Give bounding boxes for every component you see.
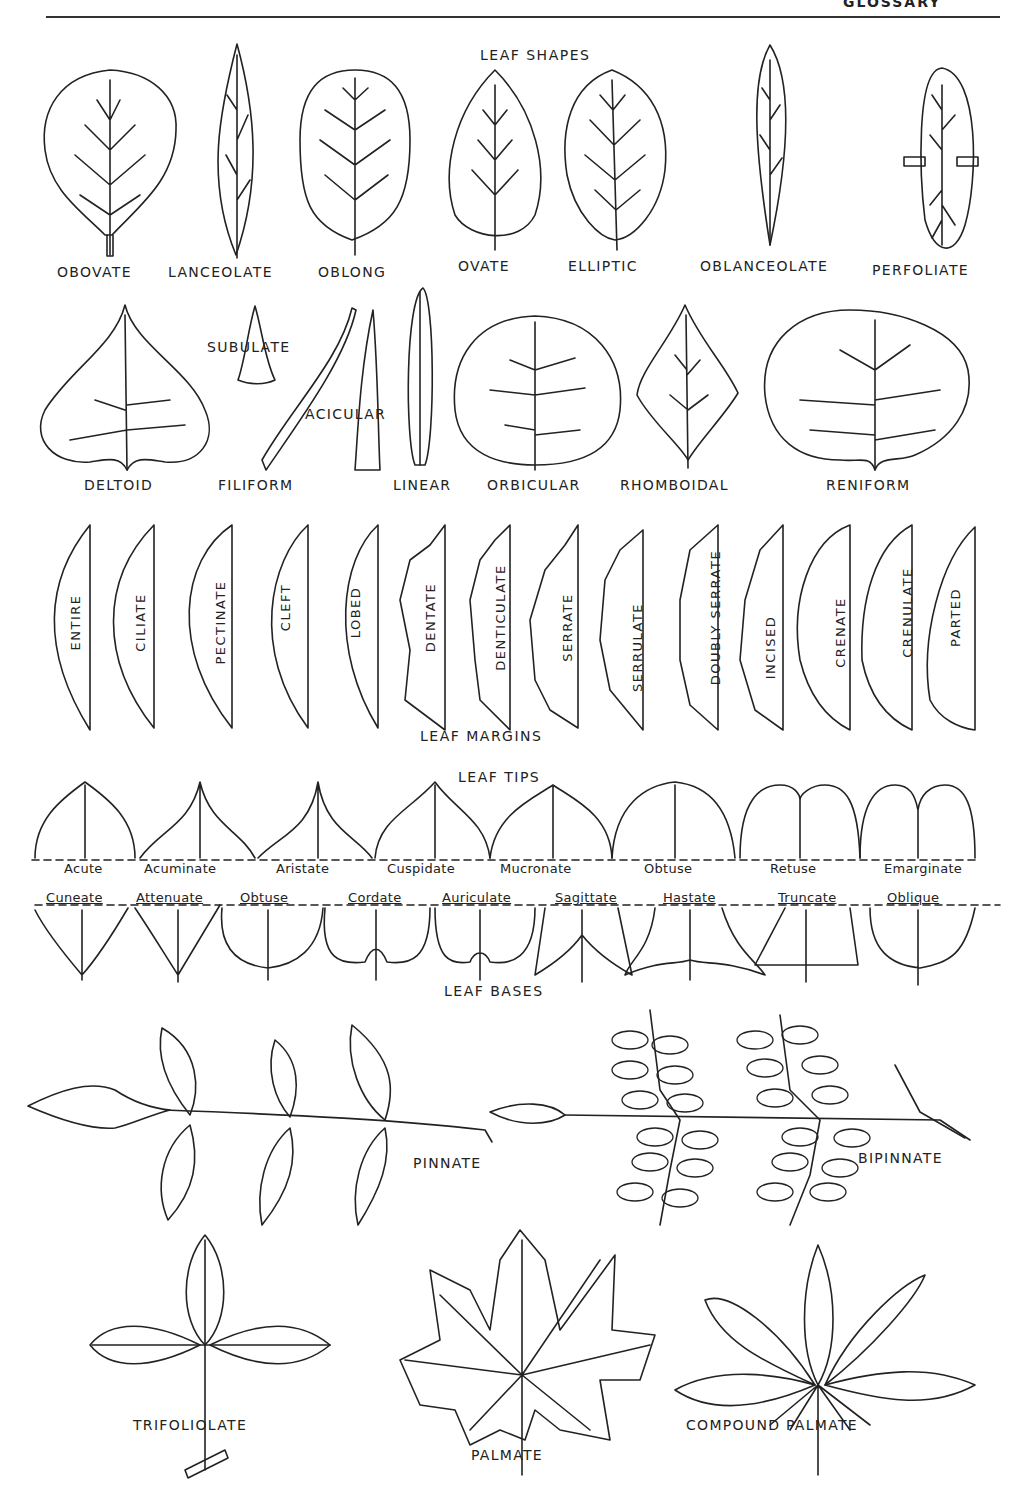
- label-acute: Acute: [64, 861, 103, 876]
- label-cuneate: Cuneate: [46, 890, 103, 905]
- lanceolate-leaf-icon: [218, 44, 253, 258]
- reniform-leaf-icon: [765, 310, 970, 470]
- label-orbicular: ORBICULAR: [487, 477, 581, 493]
- tip-shapes: [32, 782, 980, 860]
- section-title-leaf-tips: LEAF TIPS: [458, 769, 540, 785]
- rhomboidal-leaf-icon: [637, 305, 738, 468]
- bipinnate-leaf-icon: [490, 1010, 970, 1225]
- label-sagittate: Sagittate: [555, 890, 617, 905]
- label-cuspidate: Cuspidate: [387, 861, 455, 876]
- label-aristate: Aristate: [276, 861, 329, 876]
- palmate-leaf-icon: [400, 1230, 655, 1475]
- label-doubly-serrate: DOUBLY SERRATE: [708, 543, 723, 693]
- label-lobed: LOBED: [348, 583, 363, 643]
- label-reniform: RENIFORM: [826, 477, 910, 493]
- label-bipinnate: BIPINNATE: [858, 1150, 943, 1166]
- label-emarginate: Emarginate: [884, 861, 962, 876]
- label-cleft: CLEFT: [278, 578, 293, 638]
- label-hastate: Hastate: [663, 890, 716, 905]
- label-retuse: Retuse: [770, 861, 816, 876]
- label-trifoliolate: TRIFOLIOLATE: [133, 1417, 247, 1433]
- perfoliate-leaf-icon: [904, 68, 978, 248]
- label-ciliate: CILIATE: [133, 588, 148, 658]
- label-pectinate: PECTINATE: [213, 573, 228, 673]
- label-parted: PARTED: [948, 578, 963, 658]
- section-title-leaf-bases: LEAF BASES: [444, 983, 544, 999]
- label-compound-palmate: COMPOUND PALMATE: [686, 1417, 858, 1433]
- pinnate-leaf-icon: [28, 1025, 492, 1225]
- label-oblanceolate: OBLANCEOLATE: [700, 258, 828, 274]
- oblanceolate-leaf-icon: [757, 45, 786, 245]
- label-subulate: SUBULATE: [207, 339, 290, 355]
- label-filiform: FILIFORM: [218, 477, 293, 493]
- label-attenuate: Attenuate: [136, 890, 203, 905]
- label-serrate: SERRATE: [560, 588, 575, 668]
- label-pinnate: PINNATE: [413, 1155, 482, 1171]
- label-denticulate: DENTICULATE: [493, 563, 508, 673]
- label-obovate: OBOVATE: [57, 264, 132, 280]
- label-acicular: ACICULAR: [305, 406, 386, 422]
- label-dentate: DENTATE: [423, 578, 438, 658]
- label-obtuse-base: Obtuse: [240, 890, 288, 905]
- label-crenate: CRENATE: [833, 588, 848, 678]
- base-shapes: [35, 905, 1000, 985]
- label-auriculate: Auriculate: [442, 890, 511, 905]
- label-mucronate: Mucronate: [500, 861, 572, 876]
- filiform-leaf-icon: [262, 308, 356, 470]
- acicular-leaf-icon: [355, 310, 380, 470]
- oblong-leaf-icon: [300, 70, 410, 255]
- label-ovate: OVATE: [458, 258, 510, 274]
- label-deltoid: DELTOID: [84, 477, 153, 493]
- compound-palmate-leaf-icon: [675, 1245, 975, 1475]
- label-oblong: OBLONG: [318, 264, 386, 280]
- section-title-leaf-margins: LEAF MARGINS: [420, 728, 542, 744]
- elliptic-leaf-icon: [565, 70, 666, 250]
- label-linear: LINEAR: [393, 477, 451, 493]
- orbicular-leaf-icon: [454, 316, 620, 470]
- label-palmate: PALMATE: [471, 1447, 543, 1463]
- linear-leaf-icon: [408, 288, 432, 465]
- obovate-leaf-icon: [44, 70, 176, 256]
- label-perfoliate: PERFOLIATE: [872, 262, 969, 278]
- label-truncate: Truncate: [778, 890, 836, 905]
- label-lanceolate: LANCEOLATE: [168, 264, 273, 280]
- label-entire: ENTIRE: [68, 588, 83, 658]
- section-title-leaf-shapes: LEAF SHAPES: [480, 47, 590, 63]
- label-rhomboidal: RHOMBOIDAL: [620, 477, 729, 493]
- label-acuminate: Acuminate: [144, 861, 216, 876]
- label-incised: INCISED: [763, 608, 778, 688]
- label-serrulate: SERRULATE: [630, 598, 645, 698]
- deltoid-leaf-icon: [41, 305, 210, 470]
- label-elliptic: ELLIPTIC: [568, 258, 638, 274]
- label-obtuse-tip: Obtuse: [644, 861, 692, 876]
- label-oblique: Oblique: [887, 890, 939, 905]
- label-crenulate: CRENULATE: [900, 558, 915, 668]
- label-cordate: Cordate: [348, 890, 402, 905]
- trifoliolate-leaf-icon: [90, 1235, 330, 1478]
- ovate-leaf-icon: [449, 70, 540, 250]
- leaf-illustrations: [0, 0, 1017, 1502]
